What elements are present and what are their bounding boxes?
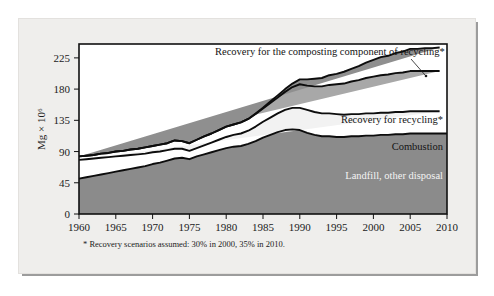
- series-annotation-0: Recovery for the composting component of…: [215, 46, 445, 57]
- y-tick-label: 0: [65, 208, 71, 220]
- chart-area: 0459013518022519601965197019751980198519…: [19, 19, 475, 273]
- y-axis-title: Mg × 10⁶: [35, 108, 47, 150]
- x-tick-label: 1995: [326, 221, 349, 233]
- stacked-area-chart: 0459013518022519601965197019751980198519…: [19, 19, 475, 273]
- y-tick-label: 225: [54, 52, 71, 64]
- y-tick-label: 135: [54, 114, 71, 126]
- x-tick-label: 1990: [289, 221, 312, 233]
- x-tick-label: 1975: [178, 221, 201, 233]
- series-annotation-2: Combustion: [392, 141, 444, 152]
- figure-panel: 0459013518022519601965197019751980198519…: [18, 18, 476, 274]
- y-tick-label: 180: [54, 83, 71, 95]
- annotation-leader-dot: [425, 75, 428, 78]
- x-tick-label: 1970: [142, 221, 165, 233]
- chart-footnote: * Recovery scenarios assumed: 30% in 200…: [83, 239, 285, 249]
- x-tick-label: 1965: [105, 221, 128, 233]
- x-tick-label: 1980: [215, 221, 238, 233]
- x-tick-label: 2010: [436, 221, 459, 233]
- y-tick-label: 90: [59, 146, 71, 158]
- series-annotation-1: Recovery for recycling*: [341, 114, 443, 125]
- x-tick-label: 2005: [399, 221, 422, 233]
- series-annotation-3: Landfill, other disposal: [345, 170, 443, 181]
- x-tick-label: 1985: [252, 221, 275, 233]
- y-tick-label: 45: [59, 177, 71, 189]
- x-tick-label: 2000: [362, 221, 385, 233]
- x-tick-label: 1960: [68, 221, 91, 233]
- figure-page: 0459013518022519601965197019751980198519…: [0, 0, 494, 296]
